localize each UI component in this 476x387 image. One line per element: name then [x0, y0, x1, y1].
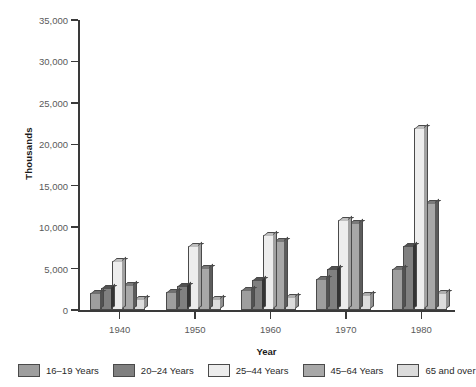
y-tick-label: 35,000 [39, 15, 68, 26]
bar-side-face [198, 242, 202, 309]
bar-side-face [133, 281, 137, 309]
y-tick-label: 25,000 [39, 97, 68, 108]
y-tick-mark [71, 185, 78, 187]
bar [392, 269, 403, 310]
bar-side-face [413, 242, 417, 309]
bar-side-face [251, 286, 255, 309]
legend-item[interactable]: 65 and over [397, 364, 475, 377]
bar-side-face [337, 264, 341, 309]
x-axis-title: Year [78, 346, 455, 357]
x-tick-label: 1950 [185, 324, 206, 335]
bar-side-face [435, 199, 439, 309]
bar-side-face [348, 216, 352, 309]
x-tick-label: 1960 [260, 324, 281, 335]
bar-side-face [111, 284, 115, 309]
x-tick-mark [421, 311, 423, 319]
bar [166, 292, 177, 310]
legend-label: 65 and over [425, 365, 475, 376]
y-tick-mark [71, 61, 78, 63]
bar [241, 290, 252, 310]
bar-side-face [402, 265, 406, 309]
bar-side-face [122, 257, 126, 309]
legend-item[interactable]: 16–19 Years [18, 364, 99, 377]
y-axis-title: Thousands [23, 104, 34, 204]
bar-side-face [295, 293, 299, 309]
legend-label: 20–24 Years [141, 365, 194, 376]
bar [90, 293, 101, 310]
y-tick-mark [71, 102, 78, 104]
x-tick-mark [119, 311, 121, 319]
x-tick-label: 1980 [411, 324, 432, 335]
bar [316, 279, 327, 310]
chart-legend: 16–19 Years20–24 Years25–44 Years45–64 Y… [0, 360, 468, 380]
legend-item[interactable]: 45–64 Years [303, 364, 384, 377]
x-tick-mark [345, 311, 347, 319]
bar-side-face [326, 275, 330, 309]
y-tick-label: 15,000 [39, 180, 68, 191]
x-axis-line [78, 310, 455, 312]
legend-item[interactable]: 25–44 Years [208, 364, 289, 377]
bar-side-face [176, 288, 180, 309]
bar-side-face [273, 230, 277, 309]
legend-swatch [18, 364, 40, 377]
bar-side-face [262, 276, 266, 309]
legend-swatch [208, 364, 230, 377]
y-tick-mark [71, 309, 78, 311]
legend-swatch [303, 364, 325, 377]
legend-swatch [397, 364, 419, 377]
bar-side-face [284, 237, 288, 309]
legend-label: 45–64 Years [331, 365, 384, 376]
y-tick-label: 30,000 [39, 56, 68, 67]
bar-side-face [446, 289, 450, 309]
x-tick-mark [194, 311, 196, 319]
y-tick-mark [71, 226, 78, 228]
bar-side-face [187, 282, 191, 309]
legend-label: 16–19 Years [46, 365, 99, 376]
legend-swatch [113, 364, 135, 377]
bar-side-face [424, 124, 428, 309]
plot-area: 05,00010,00015,00020,00025,00030,00035,0… [78, 20, 455, 310]
y-tick-label: 5,000 [44, 263, 68, 274]
x-tick-label: 1940 [109, 324, 130, 335]
legend-item[interactable]: 20–24 Years [113, 364, 194, 377]
bar-side-face [209, 264, 213, 309]
legend-label: 25–44 Years [236, 365, 289, 376]
y-tick-mark [71, 268, 78, 270]
x-tick-mark [270, 311, 272, 319]
y-tick-mark [71, 144, 78, 146]
y-tick-label: 20,000 [39, 139, 68, 150]
y-tick-label: 10,000 [39, 222, 68, 233]
y-tick-label: 0 [63, 305, 68, 316]
y-tick-mark [71, 19, 78, 21]
bar-side-face [359, 219, 363, 309]
x-tick-label: 1970 [335, 324, 356, 335]
